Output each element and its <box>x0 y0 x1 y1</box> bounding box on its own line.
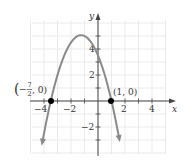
x-tick-label-neg4: −4 <box>34 104 48 114</box>
point-left-intercept <box>48 98 54 104</box>
point-right-intercept <box>108 98 114 104</box>
x-tick-label-4: 4 <box>149 104 155 114</box>
curve-right-arrow-icon <box>116 135 122 142</box>
x-tick-label-2: 2 <box>121 104 127 114</box>
y-axis-label: y <box>88 11 95 21</box>
x-tick-label-neg2: −2 <box>63 104 76 114</box>
y-tick-label-2: 2 <box>89 70 95 80</box>
parabola-chart: x y −4 −2 2 4 4 2 −2 (1, 0) ( − 7 2 , 0) <box>0 0 188 162</box>
svg-text:−: − <box>19 84 27 94</box>
x-axis-arrow-icon <box>169 99 176 104</box>
point-left-label: ( − 7 2 , 0) <box>14 81 47 98</box>
y-axis-arrow-icon <box>96 13 101 20</box>
svg-text:, 0): , 0) <box>32 85 47 95</box>
x-axis-label: x <box>172 104 177 114</box>
curve-left-arrow-icon <box>40 138 46 145</box>
point-right-label: (1, 0) <box>113 87 137 97</box>
y-tick-label-neg2: −2 <box>81 122 94 132</box>
axes <box>30 13 176 156</box>
